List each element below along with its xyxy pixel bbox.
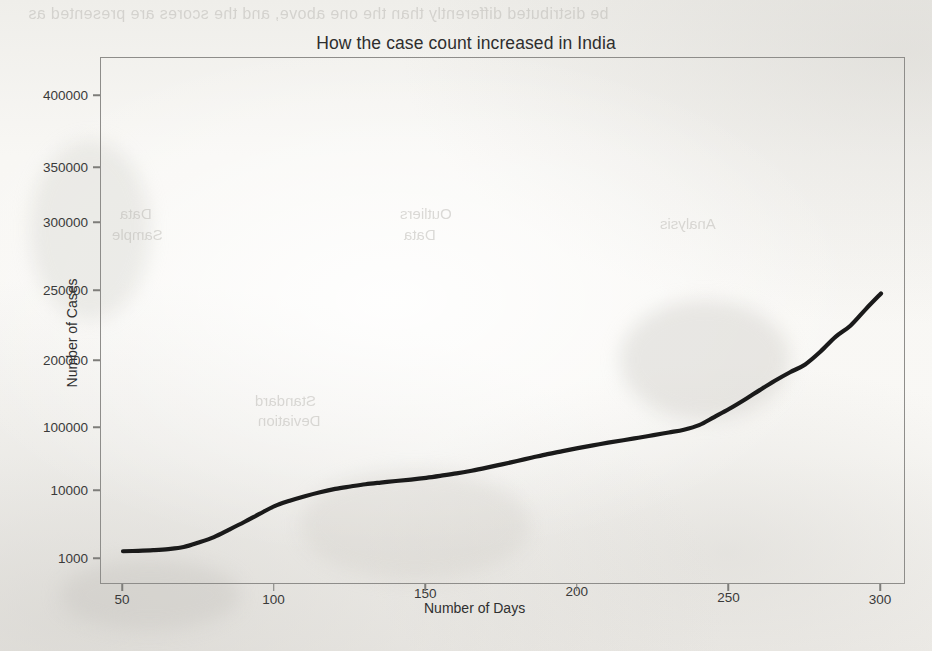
x-tick-label: 50 xyxy=(114,592,129,607)
y-tick-mark xyxy=(93,489,100,491)
x-tick-mark xyxy=(121,584,123,591)
y-tick-label: 100000 xyxy=(43,420,88,435)
x-tick-mark xyxy=(879,584,881,591)
series-line-india xyxy=(123,294,881,552)
y-tick-mark xyxy=(93,166,100,168)
y-tick-label: 250000 xyxy=(43,283,88,298)
y-tick-mark xyxy=(93,557,100,559)
x-tick-label: 250 xyxy=(717,590,740,605)
x-tick-mark xyxy=(576,584,578,591)
plot-area xyxy=(100,57,905,584)
x-axis-label: Number of Days xyxy=(424,600,525,616)
x-tick-mark xyxy=(728,584,730,591)
y-tick-label: 400000 xyxy=(43,88,88,103)
y-axis-label: Number of Cases xyxy=(64,253,80,413)
y-tick-mark xyxy=(93,221,100,223)
x-tick-label: 300 xyxy=(869,592,892,607)
y-tick-mark xyxy=(93,426,100,428)
chart-figure: How the case count increased in India Nu… xyxy=(0,0,932,651)
series-layer xyxy=(101,58,906,585)
x-tick-mark xyxy=(273,584,275,591)
y-tick-label: 200000 xyxy=(43,353,88,368)
x-tick-label: 100 xyxy=(262,592,285,607)
y-tick-mark xyxy=(93,359,100,361)
y-tick-label: 300000 xyxy=(43,215,88,230)
scanned-page: be distributed differently than the one … xyxy=(0,0,932,651)
y-tick-mark xyxy=(93,289,100,291)
y-tick-mark xyxy=(93,94,100,96)
chart-title: How the case count increased in India xyxy=(0,33,932,54)
y-tick-label: 1000 xyxy=(58,551,88,566)
y-tick-label: 10000 xyxy=(50,483,88,498)
x-tick-mark xyxy=(424,584,426,591)
y-tick-label: 350000 xyxy=(43,160,88,175)
